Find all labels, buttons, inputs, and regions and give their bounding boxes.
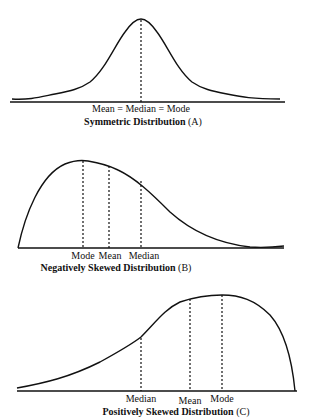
panel-c-title-text: Positively Skewed Distribution: [103, 406, 234, 417]
panel-b-title-text: Negatively Skewed Distribution: [41, 262, 176, 273]
panel-c-median-label: Median: [126, 393, 157, 404]
panel-c-title: Positively Skewed Distribution (C): [103, 406, 250, 417]
panel-a-title-text: Symmetric Distribution: [84, 116, 185, 127]
panel-b-mean-label: Mean: [99, 250, 122, 261]
panel-b-tag: (B): [178, 262, 191, 273]
panel-b-median-label: Median: [129, 250, 160, 261]
panel-b-title: Negatively Skewed Distribution (B): [41, 262, 192, 273]
distribution-diagrams: [0, 0, 312, 420]
panel-a-symmetric: [10, 19, 285, 102]
panel-c-mode-label: Mode: [210, 393, 233, 404]
panel-c-tag: (C): [236, 406, 249, 417]
panel-a-marker-label: Mean = Median = Mode: [92, 103, 190, 114]
panel-c-curve: [17, 295, 295, 391]
panel-b-curve: [18, 160, 284, 248]
panel-c-mean-label: Mean: [179, 395, 202, 406]
panel-a-tag: (A): [188, 116, 202, 127]
panel-a-title: Symmetric Distribution (A): [84, 116, 202, 127]
panel-b-skewed: [18, 160, 284, 248]
panel-b-mode-label: Mode: [71, 250, 94, 261]
panel-a-curve: [12, 19, 280, 99]
panel-c-skewed: [17, 295, 297, 391]
